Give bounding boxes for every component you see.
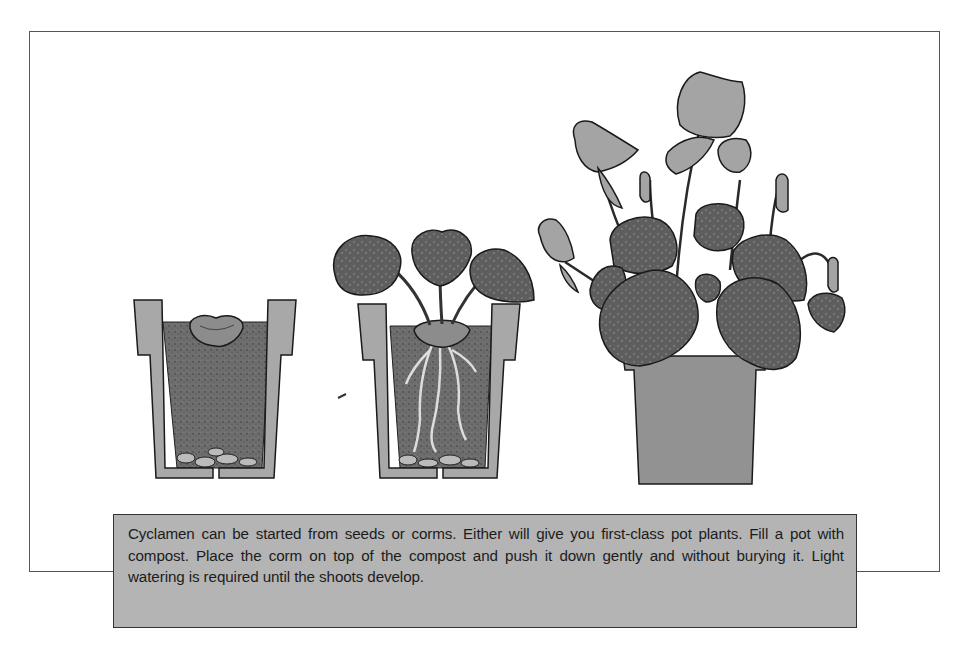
stage-1-pot <box>134 300 296 478</box>
caption-box: Cyclamen can be started from seeds or co… <box>113 514 857 628</box>
stage-3-pot <box>539 72 845 484</box>
caption-text: Cyclamen can be started from seeds or co… <box>128 523 844 588</box>
stage-2-pot <box>334 230 534 478</box>
